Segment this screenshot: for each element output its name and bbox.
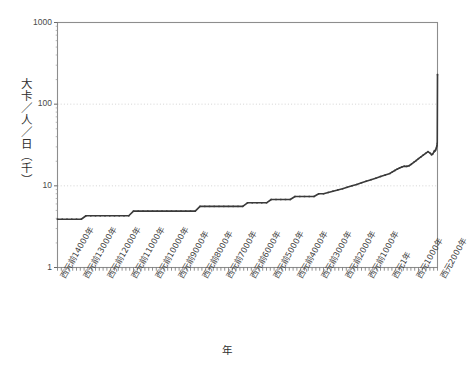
data-point-marker — [199, 206, 201, 208]
data-point-marker — [180, 210, 182, 212]
data-point-marker — [385, 174, 387, 176]
data-point-marker — [413, 162, 415, 164]
data-point-marker — [209, 206, 211, 208]
data-point-marker — [237, 206, 239, 208]
data-point-marker — [114, 215, 116, 217]
data-point-marker — [436, 145, 438, 147]
data-point-marker — [228, 206, 230, 208]
data-point-marker — [328, 192, 330, 194]
data-point-marker — [166, 210, 168, 212]
data-point-marker — [171, 210, 173, 212]
data-point-marker — [430, 153, 432, 155]
data-point-marker — [392, 171, 394, 173]
data-point-marker — [396, 168, 398, 170]
data-point-marker — [157, 210, 159, 212]
data-point-marker — [57, 218, 59, 220]
data-point-marker — [408, 165, 410, 167]
data-point-marker — [366, 180, 368, 182]
data-point-marker — [423, 154, 425, 156]
data-point-marker — [195, 210, 197, 212]
data-point-marker — [185, 210, 187, 212]
data-point-marker — [71, 218, 73, 220]
data-point-marker — [404, 165, 406, 167]
data-point-marker — [285, 199, 287, 201]
data-point-marker — [318, 193, 320, 195]
data-point-marker — [420, 156, 422, 158]
data-point-marker — [436, 147, 438, 149]
data-point-marker — [104, 215, 106, 217]
data-point-marker — [337, 189, 339, 191]
data-point-marker — [223, 206, 225, 208]
data-point-marker — [247, 202, 249, 204]
data-point-marker — [313, 196, 315, 198]
data-point-marker — [81, 218, 83, 220]
data-point-marker — [418, 158, 420, 160]
data-point-marker — [109, 215, 111, 217]
data-point-marker — [361, 182, 363, 184]
data-point-marker — [401, 166, 403, 168]
data-point-marker — [100, 215, 102, 217]
data-point-marker — [261, 202, 263, 204]
data-point-marker — [142, 210, 144, 212]
data-point-marker — [309, 196, 311, 198]
data-point-marker — [380, 176, 382, 178]
data-point-marker — [435, 149, 437, 151]
data-point-marker — [123, 215, 125, 217]
data-point-marker — [389, 173, 391, 175]
data-point-marker — [138, 210, 140, 212]
data-line-series-0 — [58, 75, 438, 220]
data-point-marker — [147, 210, 149, 212]
data-point-marker — [204, 206, 206, 208]
data-point-marker — [85, 215, 87, 217]
data-point-marker — [266, 202, 268, 204]
data-point-marker — [233, 206, 235, 208]
data-point-marker — [290, 199, 292, 201]
data-point-marker — [133, 210, 135, 212]
data-point-marker — [399, 167, 401, 169]
data-point-marker — [176, 210, 178, 212]
data-point-marker — [432, 153, 434, 155]
data-point-marker — [375, 177, 377, 179]
data-point-marker — [256, 202, 258, 204]
data-point-marker — [128, 215, 130, 217]
data-point-marker — [437, 74, 439, 76]
data-point-marker — [161, 210, 163, 212]
data-point-marker — [351, 185, 353, 187]
data-point-marker — [280, 199, 282, 201]
data-point-marker — [119, 215, 121, 217]
data-point-marker — [218, 206, 220, 208]
data-point-marker — [90, 215, 92, 217]
data-point-marker — [323, 193, 325, 195]
data-point-marker — [394, 170, 396, 172]
data-point-marker — [275, 199, 277, 201]
data-point-marker — [152, 210, 154, 212]
data-point-marker — [332, 190, 334, 192]
data-point-marker — [214, 206, 216, 208]
data-point-marker — [66, 218, 68, 220]
data-point-marker — [347, 187, 349, 189]
data-point-marker — [252, 202, 254, 204]
data-point-marker — [437, 143, 439, 145]
data-point-marker — [95, 215, 97, 217]
data-point-marker — [406, 166, 408, 168]
data-point-marker — [425, 153, 427, 155]
data-point-marker — [370, 179, 372, 181]
data-point-marker — [76, 218, 78, 220]
x-axis-title: 年 — [0, 342, 453, 357]
data-point-marker — [304, 196, 306, 198]
data-point-marker — [299, 196, 301, 198]
data-point-marker — [294, 196, 296, 198]
data-point-marker — [190, 210, 192, 212]
data-point-marker — [411, 163, 413, 165]
data-point-marker — [356, 184, 358, 186]
data-point-marker — [342, 188, 344, 190]
data-point-marker — [427, 151, 429, 153]
data-point-marker — [242, 206, 244, 208]
data-point-marker — [271, 199, 273, 201]
data-point-marker — [415, 160, 417, 162]
data-point-marker — [62, 218, 64, 220]
